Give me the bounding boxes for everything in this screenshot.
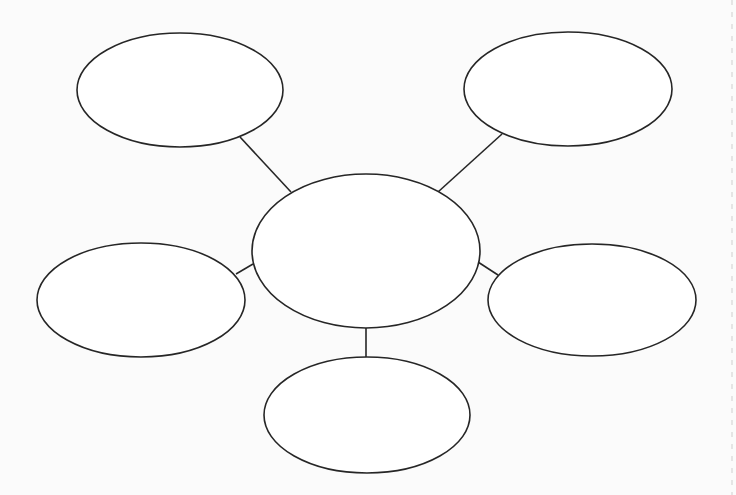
left-ellipse[interactable] <box>37 243 245 357</box>
bottom-ellipse[interactable] <box>264 357 470 473</box>
node-left[interactable] <box>37 243 245 357</box>
node-bottom[interactable] <box>264 357 470 473</box>
top-left-ellipse[interactable] <box>77 33 283 147</box>
connector-right <box>478 262 498 275</box>
top-right-ellipse[interactable] <box>464 32 672 146</box>
right-ellipse[interactable] <box>488 244 696 356</box>
spider-diagram <box>0 0 736 495</box>
node-top-left[interactable] <box>77 33 283 147</box>
node-top-right[interactable] <box>464 32 672 146</box>
connector-top-left <box>240 137 291 192</box>
node-center[interactable] <box>252 174 480 328</box>
diagram-nodes <box>37 32 696 473</box>
node-right[interactable] <box>488 244 696 356</box>
center-ellipse[interactable] <box>252 174 480 328</box>
connector-left <box>236 264 253 274</box>
connector-top-right <box>438 134 502 192</box>
